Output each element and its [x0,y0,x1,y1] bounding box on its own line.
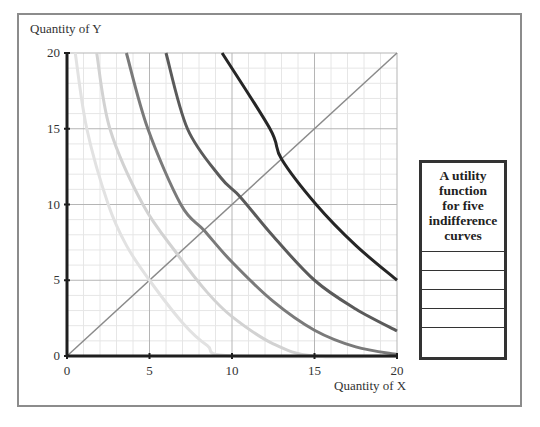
y-tick-label: 15 [47,121,60,136]
y-tick-label: 10 [47,197,60,212]
y-axis-label: Quantity of Y [30,21,102,36]
legend-title-line: for five [422,198,504,213]
y-tick-label: 0 [54,348,61,363]
x-tick-label: 15 [308,363,321,378]
y-tick-label: 5 [54,272,61,287]
x-tick-label: 20 [391,363,404,378]
legend-entry [422,308,504,327]
x-tick-label: 5 [146,363,153,378]
legend-title-line: curves [422,228,504,243]
legend-title-line: A utility [422,168,504,183]
legend-entry [422,270,504,289]
legend-title: A utility function for five indifference… [422,163,504,251]
legend-entry [422,251,504,270]
x-axis-label: Quantity of X [334,378,407,393]
y-tick-label: 20 [47,45,60,60]
x-tick-label: 0 [64,363,71,378]
legend-title-line: function [422,183,504,198]
legend-entry [422,289,504,308]
legend-box: A utility function for five indifference… [419,160,507,360]
legend-entry [422,327,504,346]
x-tick-label: 10 [226,363,239,378]
legend-title-line: indifference [422,213,504,228]
